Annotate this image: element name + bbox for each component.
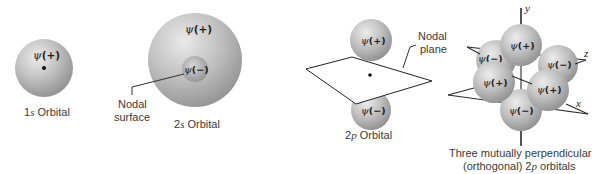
x-axis-back-stub <box>448 88 474 95</box>
orthogonal-caption-line1: Three mutually perpendicular <box>449 147 592 159</box>
1s-lobe-label: ψ(+) <box>33 49 60 62</box>
orbital-diagram: ψ(+) 1s Orbital ψ(+) ψ(−) Nodal surface … <box>0 0 608 174</box>
2s-inner-lobe-label: ψ(−) <box>184 64 209 75</box>
panel-orthogonal-2p-orbitals: y z x ψ(−) ψ(−) ψ(−) ψ(+) ψ(+) ψ(+) <box>448 2 592 172</box>
axes-center-cross <box>512 76 532 84</box>
z-axis-label: z <box>583 47 589 59</box>
nodal-plane-leader-line <box>403 45 416 68</box>
lobe-bottom-label: ψ(−) <box>509 105 534 116</box>
panel-2s-orbital: ψ(+) ψ(−) Nodal surface 2s Orbital <box>114 13 242 130</box>
nucleus-dot <box>42 66 46 70</box>
panel-2p-orbital: ψ(−) ψ(+) Nodal plane 2p Orbital <box>306 19 447 141</box>
nucleus-dot <box>368 73 372 77</box>
nodal-plane <box>306 57 432 104</box>
2p-lower-lobe-label: ψ(−) <box>361 105 386 116</box>
lobe-left-front-label: ψ(+) <box>483 77 508 88</box>
2p-upper-lobe-label: ψ(+) <box>361 35 386 46</box>
y-axis-label: y <box>524 2 530 14</box>
2s-caption: 2s Orbital <box>174 118 220 130</box>
nodal-plane-label: Nodal <box>418 30 447 42</box>
lobe-right-back-label: ψ(−) <box>547 59 572 70</box>
nodal-surface-label-line2: surface <box>114 111 150 123</box>
lobe-top-label: ψ(+) <box>510 40 535 51</box>
nodal-plane-label-line2: plane <box>420 43 447 55</box>
nodal-surface-label: Nodal <box>118 98 147 110</box>
1s-caption: 1s Orbital <box>24 106 70 118</box>
lobe-right-front-label: ψ(+) <box>537 84 562 95</box>
orthogonal-caption-line2: (orthogonal) 2p orbitals <box>463 160 576 172</box>
2s-outer-lobe-label: ψ(+) <box>185 23 212 36</box>
panel-1s-orbital: ψ(+) 1s Orbital <box>15 39 73 118</box>
x-axis-label: x <box>575 97 581 109</box>
2p-caption: 2p Orbital <box>345 129 392 141</box>
